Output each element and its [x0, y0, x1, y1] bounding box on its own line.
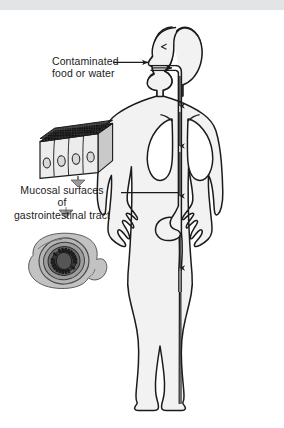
intestine-cross-section	[29, 233, 107, 288]
contaminated-line-2: food or water	[52, 67, 119, 79]
contaminated-line-1: Contaminated	[52, 55, 119, 67]
colon-lumen-fill	[179, 271, 181, 292]
mucosal-line-2: of	[6, 196, 118, 208]
mucosal-line-1: Mucosal surfaces	[6, 184, 118, 196]
small-intestine-left	[179, 237, 180, 271]
label-mucosal-surfaces: Mucosal surfaces of gastrointestinal tra…	[6, 184, 118, 221]
columnar-epithelium-block	[40, 120, 113, 178]
transmission-route-figure: Contaminated food or water Mucosal surfa…	[0, 0, 284, 428]
head-profile	[147, 28, 202, 97]
mucosal-line-3: gastrointestinal tract	[6, 209, 118, 221]
head-outline	[147, 28, 202, 97]
label-contaminated-food-or-water: Contaminated food or water	[52, 55, 119, 80]
